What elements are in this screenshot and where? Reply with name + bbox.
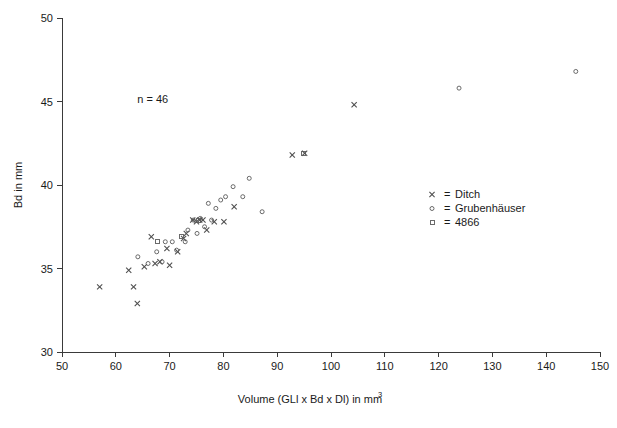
data-point-grubenhauser	[146, 261, 150, 265]
legend-x-icon	[429, 192, 434, 197]
x-tick-label: 110	[376, 360, 394, 372]
x-tick-label: 50	[56, 360, 68, 372]
series-ditch	[97, 102, 357, 306]
data-point-ditch	[131, 284, 136, 289]
y-tick-label: 30	[41, 346, 53, 358]
x-tick-label: 130	[483, 360, 501, 372]
data-point-grubenhauser	[163, 240, 167, 244]
data-point-ditch	[221, 219, 226, 224]
data-point-4866	[156, 240, 160, 244]
data-point-grubenhauser	[247, 176, 251, 180]
data-point-grubenhauser	[241, 195, 245, 199]
data-point-grubenhauser	[457, 86, 461, 90]
legend-equals: =	[444, 188, 450, 200]
x-tick-label: 90	[271, 360, 283, 372]
data-point-ditch	[142, 264, 147, 269]
x-tick-label: 70	[163, 360, 175, 372]
x-axis-title-superscript: 3	[378, 390, 382, 399]
data-point-ditch	[290, 152, 295, 157]
sample-size-annotation: n = 46	[137, 93, 168, 105]
data-points	[97, 69, 578, 306]
x-tick-label: 60	[110, 360, 122, 372]
data-point-grubenhauser	[219, 198, 223, 202]
data-point-grubenhauser	[214, 206, 218, 210]
series-grubenh-user	[136, 69, 578, 265]
data-point-ditch	[126, 268, 131, 273]
legend-equals: =	[444, 202, 450, 214]
data-point-grubenhauser	[155, 250, 159, 254]
scatter-plot-figure: 30354045505060708090100110120130140150 n…	[0, 0, 617, 428]
y-axis-title: Bd in mm	[12, 162, 24, 208]
y-tick-label: 40	[41, 179, 53, 191]
data-point-grubenhauser	[170, 240, 174, 244]
data-point-grubenhauser	[231, 185, 235, 189]
data-point-ditch	[232, 204, 237, 209]
x-tick-label: 150	[591, 360, 609, 372]
legend-equals: =	[444, 216, 450, 228]
data-point-ditch	[167, 263, 172, 268]
data-point-ditch	[149, 234, 154, 239]
y-tick-label: 45	[41, 96, 53, 108]
data-point-ditch	[152, 261, 157, 266]
plot-canvas: 30354045505060708090100110120130140150 n…	[0, 0, 617, 428]
data-point-grubenhauser	[206, 201, 210, 205]
data-point-grubenhauser	[260, 210, 264, 214]
data-point-ditch	[352, 102, 357, 107]
x-tick-label: 100	[322, 360, 340, 372]
tick-labels: 30354045505060708090100110120130140150	[41, 12, 609, 372]
data-point-ditch	[164, 246, 169, 251]
data-point-ditch	[135, 301, 140, 306]
plot-axes	[57, 18, 600, 357]
series-4866	[156, 151, 306, 244]
x-tick-label: 140	[537, 360, 555, 372]
data-point-grubenhauser	[195, 231, 199, 235]
legend-circle-icon	[430, 207, 434, 211]
y-tick-label: 35	[41, 263, 53, 275]
data-point-grubenhauser	[160, 260, 164, 264]
y-tick-label: 50	[41, 12, 53, 24]
legend-square-icon	[430, 221, 434, 225]
legend-label: 4866	[455, 216, 479, 228]
legend-label: Grubenhäuser	[455, 202, 526, 214]
data-point-grubenhauser	[574, 69, 578, 73]
data-point-grubenhauser	[136, 255, 140, 259]
legend: =Ditch=Grubenhäuser=4866	[429, 188, 525, 228]
data-point-grubenhauser	[224, 195, 228, 199]
legend-label: Ditch	[455, 188, 480, 200]
data-point-ditch	[97, 284, 102, 289]
x-tick-label: 120	[429, 360, 447, 372]
x-axis-title: Volume (GLl x Bd x Dl) in mm	[238, 393, 382, 405]
x-tick-label: 80	[217, 360, 229, 372]
